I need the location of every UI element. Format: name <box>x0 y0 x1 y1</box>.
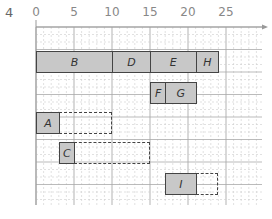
tick-label: 25 <box>218 5 233 19</box>
tick-label: 10 <box>104 5 119 19</box>
tick-label: 20 <box>180 5 195 19</box>
task-i: I <box>165 173 196 195</box>
task-c: C <box>59 142 75 164</box>
task-h: H <box>196 51 220 73</box>
tick-label: 15 <box>142 5 157 19</box>
float-c <box>74 142 150 164</box>
task-f: F <box>150 82 166 104</box>
grid <box>0 0 272 219</box>
float-i <box>196 173 219 195</box>
task-b: B <box>36 51 113 73</box>
tick-label: 5 <box>70 5 78 19</box>
gantt-chart: 4 0510152025 BDEHFGACI <box>0 0 272 219</box>
task-d: D <box>112 51 151 73</box>
float-a <box>59 112 112 134</box>
task-a: A <box>36 112 60 134</box>
tick-label: 0 <box>32 5 40 19</box>
figure-number: 4 <box>5 5 13 20</box>
task-g: G <box>165 82 196 104</box>
task-e: E <box>150 51 197 73</box>
